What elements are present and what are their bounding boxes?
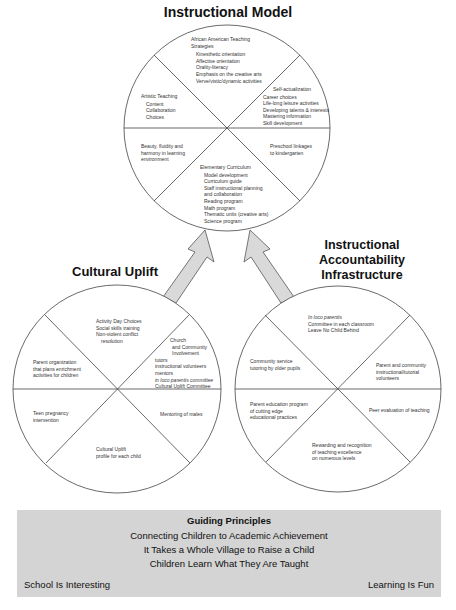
- segment-item: on numerous levels: [312, 455, 371, 462]
- segment-item: Model development: [204, 172, 268, 179]
- accountability-title-line: Accountability: [282, 253, 442, 268]
- segment-item: of cutting edge: [250, 408, 308, 415]
- segment-item: Kinesthetic orientation: [196, 51, 262, 58]
- segment-item: Choices: [146, 114, 177, 121]
- segment-item: volunteers: [376, 375, 426, 382]
- segment-mentoring-males: Mentoring of males: [160, 411, 203, 418]
- segment-item: educational practices: [250, 414, 308, 421]
- segment-elementary-curriculum: Elementary Curriculum Model development …: [200, 164, 268, 224]
- segment-teen-pregnancy: Teen pregnancy intervention: [33, 410, 69, 423]
- principle-line: It Takes a Whole Village to Raise a Chil…: [17, 544, 441, 555]
- segment-heading: African American Teaching: [191, 36, 262, 43]
- segment-item: of teaching excellence: [312, 449, 371, 456]
- segment-item: and collaboration: [204, 191, 268, 198]
- segment-item: Cultural Uplift: [96, 446, 141, 453]
- segment-item: Committee in each classroom: [308, 321, 374, 328]
- segment-rewarding-recognition: Rewarding and recognition of teaching ex…: [312, 442, 371, 462]
- segment-community-service: Community service tutoring by older pupi…: [250, 358, 300, 371]
- segment-item: Collaboration: [146, 107, 177, 114]
- segment-heading: Artistic Teaching: [141, 93, 177, 100]
- segment-item: Social skills training: [96, 325, 142, 332]
- segment-item: instructional/tutorial: [376, 369, 426, 376]
- guiding-principles-box: Guiding Principles Connecting Children t…: [17, 510, 441, 597]
- segment-item: Skill development: [263, 120, 329, 127]
- segment-self-actualization: Self-actualization Career choices Life-l…: [263, 86, 329, 127]
- segment-parent-education: Parent education program of cutting edge…: [250, 401, 308, 421]
- segment-item: Mentoring of males: [160, 411, 203, 418]
- segment-heading: Self-actualization: [263, 86, 329, 93]
- segment-church-community: Church and Community Involvement tutors …: [155, 337, 213, 390]
- segment-item: Math program: [204, 205, 268, 212]
- segment-item: Preschool linkages: [270, 143, 312, 150]
- segment-heading: and Community: [170, 344, 213, 351]
- segment-item: profile for each child: [96, 453, 141, 460]
- principle-line: Connecting Children to Academic Achievem…: [17, 530, 441, 541]
- segment-artistic-teaching: Artistic Teaching Content Collaboration …: [141, 93, 177, 120]
- segment-african-american-teaching: African American Teaching Strategies Kin…: [191, 36, 262, 84]
- segment-item: Science program: [204, 218, 268, 225]
- segment-item: Career choices: [263, 94, 329, 101]
- segment-item: Beauty, fluidity and: [141, 143, 185, 150]
- principle-school-interesting: School Is Interesting: [24, 579, 110, 590]
- segment-item: Life-long leisure activities: [263, 100, 329, 107]
- segment-item: Thematic units (creative arts): [204, 211, 268, 218]
- segment-item: Parent organization: [33, 359, 81, 366]
- segment-item: Leave No Child Behind: [308, 327, 374, 334]
- segment-item: tutoring by older pupils: [250, 365, 300, 372]
- segment-item: Mastering information: [263, 113, 329, 120]
- segment-item: Parent education program: [250, 401, 308, 408]
- segment-item: Reading program: [204, 198, 268, 205]
- segment-item: Verve/vistic/dynamic activities: [196, 78, 262, 85]
- segment-item: In loco parentis: [308, 314, 374, 321]
- segment-item: environment: [141, 156, 185, 163]
- segment-item: Affective orientation: [196, 58, 262, 65]
- segment-parent-community-volunteers: Parent and community instructional/tutor…: [376, 362, 426, 382]
- segment-item: Teen pregnancy: [33, 410, 69, 417]
- segment-item: Curriculum guide: [204, 178, 268, 185]
- cultural-uplift-title: Cultural Uplift: [40, 264, 190, 279]
- segment-heading: Church: [170, 337, 213, 344]
- segment-item: Emphasis on the creative arts: [196, 71, 262, 78]
- principle-line: Children Learn What They Are Taught: [17, 558, 441, 569]
- segment-item: mentors: [155, 370, 213, 377]
- segment-item: Staff instructional planning: [204, 185, 268, 192]
- segment-item: Non-violent conflict: [96, 331, 142, 338]
- segment-item: instructional volunteers: [155, 363, 213, 370]
- segment-item: in loco parentis committee: [155, 377, 213, 384]
- segment-preschool-linkages: Preschool linkages to kindergarten: [270, 143, 312, 156]
- accountability-title-line: Infrastructure: [282, 268, 442, 283]
- segment-item: tutors: [155, 357, 213, 364]
- segment-item: Community service: [250, 358, 300, 365]
- accountability-title: Instructional Accountability Infrastruct…: [282, 238, 442, 283]
- segment-heading: Elementary Curriculum: [200, 164, 268, 171]
- segment-item: Developing talents & interests: [263, 107, 329, 114]
- segment-parent-organization: Parent organization that plans enrichmen…: [33, 359, 81, 379]
- guiding-principles-heading: Guiding Principles: [17, 515, 441, 526]
- segment-item: intervention: [33, 417, 69, 424]
- segment-item: Rewarding and recognition: [312, 442, 371, 449]
- segment-item: Content: [146, 101, 177, 108]
- segment-item: Cultural Uplift Committee: [155, 383, 213, 390]
- segment-item: activities for children: [33, 372, 81, 379]
- segment-item: Orality-literacy: [196, 64, 262, 71]
- accountability-title-line: Instructional: [282, 238, 442, 253]
- segment-heading: Strategies: [191, 43, 262, 50]
- segment-peer-evaluation: Peer evaluation of teaching: [369, 407, 430, 414]
- segment-item: Peer evaluation of teaching: [369, 407, 430, 414]
- segment-item: that plans enrichment: [33, 366, 81, 373]
- segment-beauty-fluidity: Beauty, fluidity and harmony in learning…: [141, 143, 185, 163]
- segment-heading: Involvement: [170, 350, 213, 357]
- segment-in-loco-parentis: In loco parentis Committee in each class…: [308, 314, 374, 334]
- instructional-model-title: Instructional Model: [0, 4, 456, 20]
- segment-item: to kindergarten: [270, 150, 312, 157]
- segment-cultural-uplift-profile: Cultural Uplift profile for each child: [96, 446, 141, 459]
- segment-item: harmony in learning: [141, 150, 185, 157]
- segment-activity-day: Activity Day Choices Social skills train…: [96, 318, 142, 344]
- segment-item: resolution: [96, 338, 142, 345]
- principle-learning-fun: Learning Is Fun: [368, 579, 434, 590]
- segment-item: Activity Day Choices: [96, 318, 142, 325]
- segment-item: Parent and community: [376, 362, 426, 369]
